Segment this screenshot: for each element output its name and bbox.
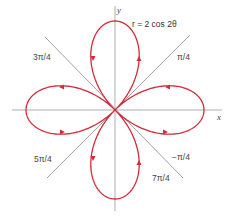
angle-label-3pi-over-4: 3π/4 [33, 52, 51, 62]
angle-label-5pi-over-4: 5π/4 [34, 154, 52, 164]
diagonal-line-3pi-over-4 [45, 37, 183, 178]
x-axis-label: x [216, 112, 221, 122]
polar-rose-diagram: y x r = 2 cos 2θ 3π/4 π/4 5π/4 −π/4 7π/4 [0, 0, 236, 222]
angle-label-neg-pi-over-4: −π/4 [172, 152, 190, 162]
angle-label-7pi-over-4: 7π/4 [152, 173, 170, 183]
y-axis-label: y [116, 5, 121, 15]
angle-label-pi-over-4: π/4 [177, 52, 190, 62]
arrow-up-icon [137, 56, 142, 61]
equation-label: r = 2 cos 2θ [132, 19, 177, 29]
arrow-up-icon [137, 160, 142, 165]
